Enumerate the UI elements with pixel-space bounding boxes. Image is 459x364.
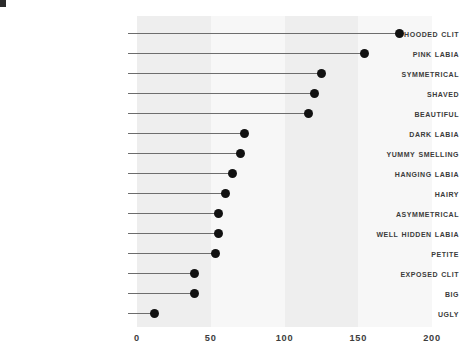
data-point-dot[interactable] <box>214 229 223 238</box>
chart-row: Asymmetrical <box>0 203 459 223</box>
chart-row: Exposed Clit <box>0 263 459 283</box>
chart-row: Shaved <box>0 83 459 103</box>
chart-row: Hanging Labia <box>0 163 459 183</box>
x-tick-label: 0 <box>134 333 140 343</box>
stem-line <box>128 73 321 74</box>
stem-wrap <box>0 103 459 123</box>
chart-row: Ugly <box>0 303 459 323</box>
stem-line <box>128 213 218 214</box>
stem-line <box>128 233 218 234</box>
data-point-dot[interactable] <box>236 149 245 158</box>
data-point-dot[interactable] <box>211 249 220 258</box>
stem-wrap <box>0 143 459 163</box>
stem-wrap <box>0 183 459 203</box>
data-point-dot[interactable] <box>240 129 249 138</box>
x-tick-label: 50 <box>205 333 217 343</box>
data-point-dot[interactable] <box>228 169 237 178</box>
stem-line <box>128 113 308 114</box>
chart-row: Symmetrical <box>0 63 459 83</box>
stem-wrap <box>0 203 459 223</box>
x-tick-label: 150 <box>349 333 367 343</box>
data-point-dot[interactable] <box>221 189 230 198</box>
data-point-dot[interactable] <box>150 309 159 318</box>
stem-line <box>128 93 314 94</box>
data-point-dot[interactable] <box>304 109 313 118</box>
stem-line <box>128 153 240 154</box>
stem-line <box>128 293 195 294</box>
stem-wrap <box>0 283 459 303</box>
stem-wrap <box>0 303 459 323</box>
corner-mark <box>0 0 6 7</box>
stem-line <box>128 53 364 54</box>
data-point-dot[interactable] <box>317 69 326 78</box>
stem-line <box>128 273 195 274</box>
chart-row: Yummy Smelling <box>0 143 459 163</box>
stem-wrap <box>0 243 459 263</box>
chart-row: Dark Labia <box>0 123 459 143</box>
data-point-dot[interactable] <box>310 89 319 98</box>
data-point-dot[interactable] <box>190 269 199 278</box>
stem-wrap <box>0 263 459 283</box>
stem-wrap <box>0 23 459 43</box>
stem-wrap <box>0 83 459 103</box>
chart-row: Pink Labia <box>0 43 459 63</box>
chart-row: Hooded Clit <box>0 23 459 43</box>
stem-line <box>128 193 226 194</box>
data-point-dot[interactable] <box>214 209 223 218</box>
stem-line <box>128 253 215 254</box>
stem-wrap <box>0 43 459 63</box>
data-point-dot[interactable] <box>360 49 369 58</box>
stem-wrap <box>0 123 459 143</box>
chart-row: Petite <box>0 243 459 263</box>
chart-row: Beautiful <box>0 103 459 123</box>
stem-line <box>128 33 400 34</box>
stem-line <box>128 133 245 134</box>
stem-wrap <box>0 223 459 243</box>
x-tick-label: 200 <box>423 333 441 343</box>
stem-wrap <box>0 163 459 183</box>
lollipop-chart: Hooded ClitPink LabiaSymmetricalShavedBe… <box>0 0 459 364</box>
chart-row: Well Hidden Labia <box>0 223 459 243</box>
data-point-dot[interactable] <box>395 29 404 38</box>
stem-wrap <box>0 63 459 83</box>
data-point-dot[interactable] <box>190 289 199 298</box>
chart-row: Hairy <box>0 183 459 203</box>
x-tick-label: 100 <box>276 333 294 343</box>
stem-line <box>128 173 233 174</box>
chart-row: Big <box>0 283 459 303</box>
